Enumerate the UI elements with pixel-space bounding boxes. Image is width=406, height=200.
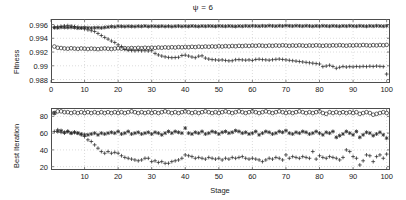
xtick-label: 90: [349, 85, 357, 94]
best-iteration-axis-label: Best Iteration: [12, 124, 21, 168]
xtick-label: 70: [282, 172, 290, 181]
xtick-label: 80: [315, 85, 323, 94]
figure-title: ψ = 6: [0, 3, 406, 12]
xtick-label: 100: [380, 85, 393, 94]
xtick-label: 60: [248, 85, 256, 94]
xtick-label: 80: [315, 172, 323, 181]
xtick-label: 70: [282, 85, 290, 94]
ytick-label: 80: [40, 112, 48, 121]
xtick-label: 10: [80, 85, 88, 94]
ytick-label: 20: [40, 162, 48, 171]
xtick-label: 50: [215, 172, 223, 181]
fitness-plot-canvas: [51, 19, 390, 83]
xtick-label: 30: [148, 172, 156, 181]
figure-root: ψ = 6 0.9880.990.9920.9940.996 010203040…: [0, 0, 406, 200]
stage-axis-label: Stage: [210, 186, 230, 195]
xtick-label: 90: [349, 172, 357, 181]
xtick-label: 50: [215, 85, 223, 94]
xtick-label: 10: [80, 172, 88, 181]
ytick-label: 0.988: [29, 75, 48, 84]
xtick-label: 60: [248, 172, 256, 181]
xtick-label: 30: [148, 85, 156, 94]
ytick-label: 0.994: [29, 34, 48, 43]
xtick-label: 40: [181, 172, 189, 181]
xtick-label: 20: [114, 172, 122, 181]
xtick-label: 20: [114, 85, 122, 94]
best-iteration-panel: [51, 108, 390, 170]
best-iteration-plot-canvas: [51, 108, 390, 170]
ytick-label: 0.992: [29, 48, 48, 57]
fitness-axis-label: Fitness: [12, 50, 21, 74]
ytick-label: 0.996: [29, 20, 48, 29]
xtick-label: 100: [380, 172, 393, 181]
xtick-label: 0: [49, 85, 53, 94]
ytick-label: 60: [40, 129, 48, 138]
ytick-label: 40: [40, 145, 48, 154]
fitness-panel: [51, 19, 390, 83]
xtick-label: 40: [181, 85, 189, 94]
ytick-label: 0.99: [33, 61, 48, 70]
